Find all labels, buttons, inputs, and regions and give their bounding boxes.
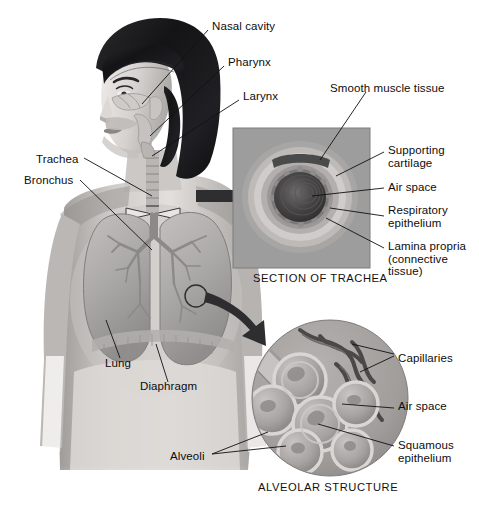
label-air-space-alveolar: Air space [398,400,447,413]
label-respiratory-epithelium: Respiratory epithelium [388,204,448,229]
label-supporting-cartilage: Supporting cartilage [388,144,445,169]
caption-alveolar-structure: ALVEOLAR STRUCTURE [258,481,398,493]
label-pharynx: Pharynx [228,56,271,69]
label-lung: Lung [105,357,131,370]
label-air-space-trachea: Air space [388,181,437,194]
trachea-section-inset [233,128,370,268]
label-alveoli: Alveoli [170,450,205,463]
label-trachea: Trachea [36,153,78,166]
respiratory-system-figure: Nasal cavity Pharynx Larynx Trachea Bron… [0,0,479,518]
label-lamina-propria: Lamina propria (connective tissue) [388,240,466,278]
label-capillaries: Capillaries [398,352,453,365]
label-nasal-cavity: Nasal cavity [212,20,275,33]
label-smooth-muscle-tissue: Smooth muscle tissue [330,82,445,95]
label-larynx: Larynx [243,90,278,103]
label-diaphragm: Diaphragm [140,380,197,393]
label-squamous-epithelium: Squamous epithelium [398,439,454,464]
caption-section-of-trachea: SECTION OF TRACHEA [253,272,388,284]
label-bronchus: Bronchus [24,174,73,187]
